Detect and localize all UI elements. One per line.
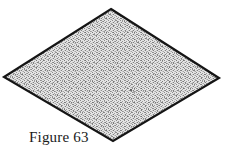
speck-icon xyxy=(133,91,135,93)
speck-icon xyxy=(96,100,97,101)
rhombus-stipple-overlay xyxy=(4,9,219,141)
figure-caption: Figure 63 xyxy=(29,128,89,146)
rhombus-body xyxy=(4,9,219,141)
speck-icon xyxy=(130,89,132,91)
figure-page: Figure 63 xyxy=(0,0,227,152)
